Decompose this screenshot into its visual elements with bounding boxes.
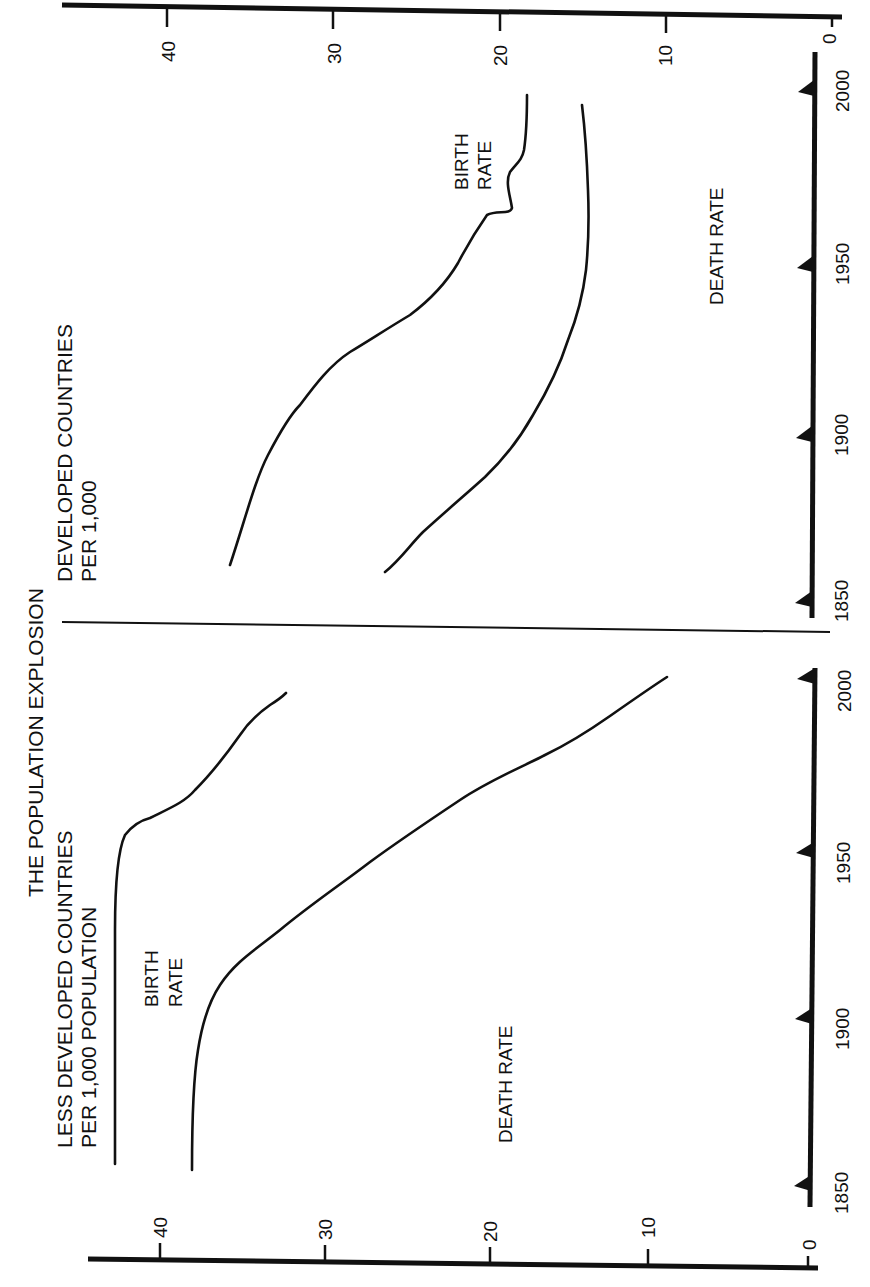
developed-xtick-2000: 2000 [832,70,853,112]
less-developed-ytick-40: 40 [150,1217,171,1238]
developed-xtick-1850: 1850 [831,580,852,622]
less-developed-death-label: DEATH RATE [495,1025,516,1143]
developed-time-axis [812,52,815,618]
developed-xtick-2000-marker [798,80,814,96]
developed-ytick-0: 0 [819,33,840,44]
developed-birth-label-line1: BIRTH [451,133,472,190]
less-developed-xtick-1900: 1900 [832,1008,853,1050]
panel-less-developed: LESS DEVELOPED COUNTRIES PER 1,000 POPUL… [53,668,855,1268]
developed-ytick-20: 20 [490,45,511,66]
developed-xtick-1950-marker [797,256,813,272]
less-developed-ytick-30: 30 [315,1219,336,1240]
less-developed-subheading: PER 1,000 POPULATION [77,907,100,1148]
less-developed-xtick-1850: 1850 [831,1172,852,1214]
less-developed-ytick-10: 10 [638,1217,659,1238]
less-developed-xtick-1950-marker [796,842,814,858]
less-developed-xtick-1850-marker [794,1175,811,1191]
less-developed-time-axis [810,668,815,1207]
less-developed-death-rate-line [192,677,667,1170]
less-developed-ytick-0: 0 [799,1239,820,1250]
panel-divider [62,622,830,632]
developed-xtick-1950: 1950 [832,243,853,285]
less-developed-xtick-1900-marker [795,1008,812,1024]
developed-heading: DEVELOPED COUNTRIES [53,324,76,582]
less-developed-birth-label-line2: RATE [165,958,186,1007]
developed-ytick-30: 30 [324,43,345,64]
less-developed-birth-rate-line [115,693,286,1164]
developed-value-axis [62,5,842,17]
less-developed-value-axis [88,1259,818,1268]
less-developed-xtick-2000-marker [797,668,815,684]
panel-developed: DEVELOPED COUNTRIES PER 1,000 40 30 20 1… [53,5,853,622]
less-developed-heading: LESS DEVELOPED COUNTRIES [53,831,76,1148]
developed-death-label: DEATH RATE [706,187,727,305]
developed-xtick-1850-marker [795,591,812,607]
developed-xtick-1900: 1900 [831,414,852,456]
less-developed-xtick-2000: 2000 [834,670,855,712]
less-developed-birth-label-line1: BIRTH [141,950,162,1007]
developed-subheading: PER 1,000 [77,480,100,582]
developed-ytick-40: 40 [158,41,179,62]
less-developed-ytick-20: 20 [480,1221,501,1242]
chart-title: THE POPULATION EXPLOSION [24,588,47,897]
developed-ytick-10: 10 [655,45,676,66]
developed-birth-label-line2: RATE [474,141,495,190]
less-developed-xtick-1950: 1950 [833,842,854,884]
developed-xtick-1900-marker [796,426,812,442]
chart-canvas: THE POPULATION EXPLOSION DEVELOPED COUNT… [0,0,870,1287]
